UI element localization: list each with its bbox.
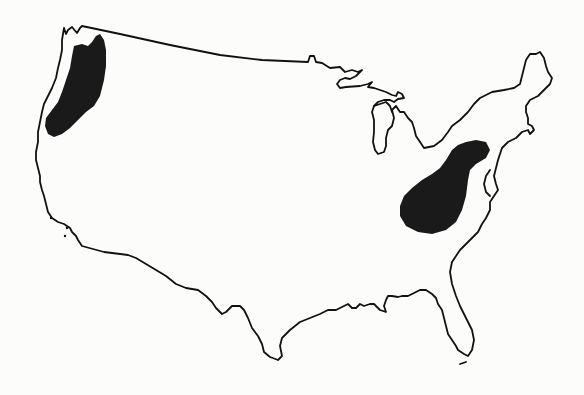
florida-keys [460,362,466,364]
shaded-region-appalachian [400,140,490,234]
channel-island [64,235,66,237]
map-frame [0,0,584,395]
chesapeake-bay-outline [484,170,490,196]
channel-island [50,217,52,219]
us-border-outline [36,26,552,360]
channel-island [66,227,68,229]
shaded-region-pacific-northwest [45,34,106,137]
us-outline-map [0,0,584,395]
